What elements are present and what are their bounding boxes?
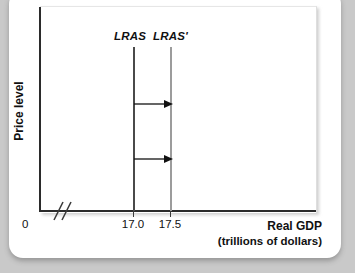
lras-prime-curve [170, 47, 172, 211]
lras-prime-curve-label: LRAS' [153, 30, 188, 42]
x-tick-mark-17-5 [170, 211, 171, 217]
x-axis-title: Real GDP (trillions of dollars) [196, 219, 322, 249]
origin-label: 0 [22, 218, 28, 230]
shift-arrow-lower-icon [132, 153, 174, 165]
axis-break-icon [50, 200, 74, 222]
x-axis-title-main: Real GDP [267, 219, 322, 233]
x-axis-line [39, 210, 316, 212]
lras-shift-chart: LRAS LRAS' 17.0 17.5 0 Price level Real … [0, 0, 355, 273]
shift-arrow-upper-icon [132, 98, 174, 110]
y-axis-title: Price level [12, 61, 26, 161]
x-tick-mark-17-0 [133, 211, 134, 217]
y-axis-line [39, 7, 41, 212]
lras-curve-label: LRAS [114, 30, 146, 42]
x-tick-label-17-5: 17.5 [147, 218, 193, 230]
lras-curve [133, 47, 135, 211]
x-axis-title-units: (trillions of dollars) [196, 234, 322, 249]
